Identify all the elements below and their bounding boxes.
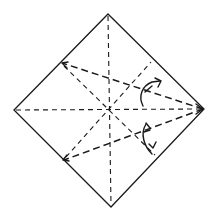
upper-valley-fold (62, 63, 203, 109)
lower-valley-fold (64, 109, 203, 160)
upper-fold-arrow-icon (141, 78, 161, 106)
diagonal-crease-2 (66, 62, 151, 157)
origami-diagram (0, 0, 216, 218)
